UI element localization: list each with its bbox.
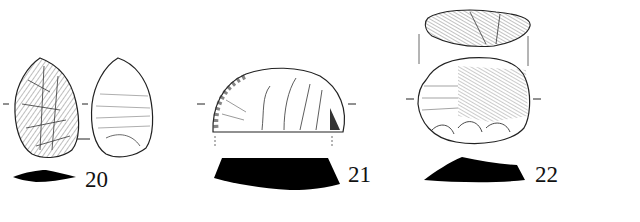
artifact-20-dorsal-view	[15, 58, 79, 157]
artifact-20-ventral-view	[92, 58, 153, 157]
artifact-22	[406, 10, 541, 182]
artifact-label-22: 22	[535, 163, 558, 186]
artifact-22-profile-view	[425, 10, 530, 47]
artifact-21-dorsal-view	[213, 68, 345, 132]
artifact-label-21: 21	[348, 163, 371, 186]
artifact-22-dorsal-view	[418, 58, 530, 144]
artifact-21-cross-section	[214, 158, 340, 190]
artifact-label-20: 20	[85, 168, 108, 191]
artifact-21	[197, 68, 356, 190]
artifact-20-cross-section	[13, 170, 76, 182]
artifact-22-cross-section	[424, 157, 525, 182]
artifact-20	[3, 58, 153, 182]
